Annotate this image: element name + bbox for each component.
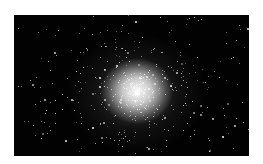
star [77,139,78,140]
star [205,82,206,83]
star [237,84,238,85]
star [101,104,102,105]
star [202,112,203,113]
star [197,57,198,58]
star [42,133,44,135]
star [115,115,116,116]
star [119,101,121,103]
star [143,94,144,95]
star [208,138,209,139]
star [133,87,135,89]
star [104,69,105,70]
star [125,50,126,51]
star [157,81,158,82]
star [75,85,76,86]
star [167,79,168,80]
star [159,105,160,106]
star [121,31,122,32]
star [55,35,56,36]
star [145,89,146,90]
star [243,122,244,123]
star [187,123,188,124]
star [41,121,42,122]
star [58,30,59,31]
star [239,25,240,26]
star [158,90,159,91]
star [50,130,51,131]
star [107,30,108,31]
star-cluster-photo [14,15,249,156]
star [107,61,108,62]
star [227,103,229,105]
star [134,41,135,42]
star [30,80,31,81]
star [121,138,122,139]
star [41,58,42,59]
star [65,140,67,142]
star [137,84,138,85]
star [219,77,220,78]
star [231,58,232,59]
star [142,37,143,38]
star [226,80,227,81]
star [125,136,126,137]
star [78,102,79,103]
star [79,33,80,34]
star [80,73,81,74]
star [55,100,56,101]
star [81,88,82,89]
star [240,29,241,30]
star [113,75,114,76]
star [135,132,136,133]
star [244,47,245,48]
star [128,15,129,16]
star [40,87,41,88]
star [71,50,72,51]
star [201,19,202,20]
star [236,118,237,119]
star [21,86,22,87]
star [202,69,203,70]
star [200,114,202,116]
star [46,110,47,111]
star [130,94,131,95]
star [48,61,49,62]
star [49,126,50,127]
star [194,134,195,135]
star [168,130,169,131]
star [186,24,187,25]
star [28,121,29,122]
star [186,105,187,106]
star [139,42,140,43]
star [122,48,123,49]
star [194,17,195,18]
star [121,107,122,108]
star [146,105,147,106]
star [79,151,80,152]
star [152,92,153,93]
star [104,81,105,82]
star [171,30,172,31]
star [186,94,187,95]
star [100,32,101,33]
star [242,102,243,103]
star [236,40,237,41]
star [126,57,127,58]
star [146,79,147,80]
star [220,61,221,62]
star [140,73,141,74]
star [137,89,139,91]
star [214,71,215,72]
star [164,117,166,119]
star [96,78,97,79]
star [113,96,114,97]
star [127,105,128,106]
star [46,29,47,30]
star [107,126,108,127]
star [56,55,57,56]
star [193,112,195,114]
star [173,109,174,110]
star [113,123,114,124]
star [130,115,131,116]
star [182,71,183,72]
